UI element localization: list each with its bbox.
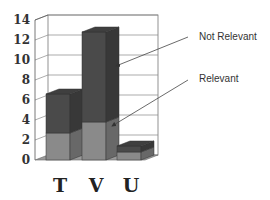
y-tick-labels: 02468101214 [13,13,30,167]
bar-segment-relevant [46,133,70,160]
bar-V [82,27,119,160]
bar-segment-not-relevant [46,94,70,133]
y-tick-label: 2 [22,133,30,147]
annotation-label-relevant: Relevant [199,73,239,84]
bar-segment-not-relevant [82,32,106,122]
y-tick-label: 10 [13,53,30,67]
x-category-labels: TVU [53,174,140,196]
bar-segment-relevant [82,122,106,160]
y-tick-label: 0 [22,153,30,167]
bar-segment-relevant [117,152,141,160]
annotation-label-not-relevant: Not Relevant [199,31,257,42]
x-category-label: V [88,174,105,196]
bar-T [46,89,83,160]
x-category-label: U [123,174,140,196]
y-tick-label: 8 [22,73,30,87]
stacked-3d-bar-chart: 02468101214 TVU Not Relevant Relevant [0,0,270,200]
y-tick-label: 4 [22,113,30,127]
x-category-label: T [53,174,67,196]
y-tick-label: 6 [22,93,30,107]
y-tick-label: 14 [13,13,30,27]
y-tick-label: 12 [13,33,30,47]
bar-U [117,141,154,160]
bar-segment-not-relevant [117,146,141,152]
